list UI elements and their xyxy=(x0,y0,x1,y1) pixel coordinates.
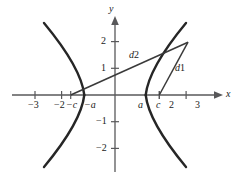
x-axis-label: x xyxy=(226,89,230,99)
hyperbola-figure: −3 −2 −c −a a c 2 3 2 1 −1 −2 x y d2 d1 xyxy=(0,0,241,182)
x-axis-group xyxy=(12,91,223,99)
x-axis-arrowhead xyxy=(214,91,223,99)
d1-suffix: 1 xyxy=(180,62,185,73)
y-tick-label--1: −1 xyxy=(96,116,107,126)
y-tick-label-2: 2 xyxy=(101,36,106,46)
focal-radius-d2-label: d2 xyxy=(129,50,139,60)
x-tick-label--c: −c xyxy=(66,100,77,110)
x-tick-label-a: a xyxy=(138,100,143,110)
focal-radius-d1-label: d1 xyxy=(175,63,185,73)
y-axis-arrowhead xyxy=(111,16,119,25)
x-tick-label--2: −2 xyxy=(54,100,65,110)
d2-suffix: 2 xyxy=(134,49,139,60)
y-tick-label--2: −2 xyxy=(96,143,107,153)
x-tick-label--a: −a xyxy=(84,100,96,110)
x-tick-label-c: c xyxy=(156,100,160,110)
y-tick-label-1: 1 xyxy=(101,63,106,73)
hyperbola-left-branch-upper xyxy=(44,23,84,95)
hyperbola-right-branch-lower xyxy=(146,95,186,167)
y-axis-label: y xyxy=(109,4,113,14)
x-tick-label-2: 2 xyxy=(169,100,174,110)
x-tick-label-3: 3 xyxy=(195,100,200,110)
x-tick-label--3: −3 xyxy=(28,100,39,110)
plot-canvas xyxy=(0,0,241,182)
